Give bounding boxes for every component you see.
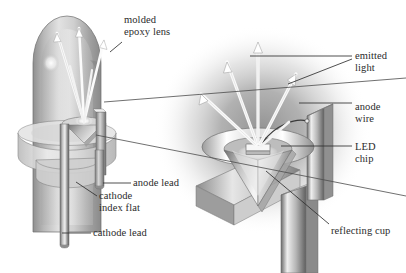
leader-molded-epoxy-lens	[110, 42, 122, 52]
label-cathode-index-flat: cathodeindex flat	[99, 190, 140, 213]
label-molded-epoxy-lens: moldedepoxy lens	[124, 14, 170, 37]
label-line-2: chip	[355, 153, 373, 164]
label-line-2: wire	[355, 113, 374, 124]
label-line-2: index flat	[99, 202, 140, 213]
label-line-1: anode	[355, 101, 381, 112]
label-line-1: emitted	[355, 50, 387, 61]
label-emitted-light: emittedlight	[355, 50, 387, 73]
label-reflecting-cup: reflecting cup	[331, 225, 390, 237]
label-line-1: cathode	[99, 190, 132, 201]
label-anode-wire: anodewire	[355, 101, 381, 124]
label-line-2: light	[355, 62, 375, 73]
label-anode-lead: anode lead	[133, 177, 179, 189]
anode-lead-shape	[95, 150, 104, 189]
label-cathode-lead: cathode lead	[93, 227, 147, 239]
label-line-1: anode lead	[133, 177, 179, 188]
label-line-1: LED	[355, 141, 376, 152]
label-line-1: reflecting cup	[331, 225, 390, 236]
full-led-view	[18, 16, 116, 248]
label-line-1: cathode lead	[93, 227, 147, 238]
led-diagram-figure: moldedepoxy lens emittedlight anodewire …	[0, 0, 406, 273]
label-line-2: epoxy lens	[124, 26, 170, 37]
label-led-chip: LEDchip	[355, 141, 376, 164]
label-line-1: molded	[124, 14, 156, 25]
